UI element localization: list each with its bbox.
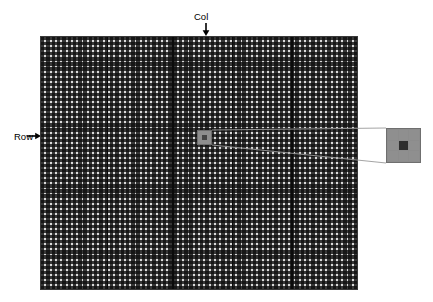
inset-cell xyxy=(409,151,418,160)
column-section-divider xyxy=(107,37,109,289)
inset-cell xyxy=(388,151,397,160)
selected-pixel-core xyxy=(202,135,207,140)
pixel-array-cells xyxy=(41,37,357,289)
pixel-array xyxy=(40,36,358,290)
inset-cell-center xyxy=(399,141,408,150)
inset-cell xyxy=(399,130,408,139)
row-arrow-icon xyxy=(27,130,41,142)
column-section-divider xyxy=(232,37,234,289)
column-section-divider xyxy=(291,37,293,289)
col-label: Col xyxy=(194,12,208,22)
inset-cell xyxy=(409,141,418,150)
selected-pixel[interactable] xyxy=(197,130,212,145)
column-section-divider xyxy=(172,37,174,289)
detector-array-figure: Col Row xyxy=(0,0,433,302)
inset-cell xyxy=(388,141,397,150)
inset-cell xyxy=(409,130,418,139)
col-arrow-icon xyxy=(200,23,212,36)
inset-cell xyxy=(388,130,397,139)
inset-cell xyxy=(399,151,408,160)
magnified-pixel-view xyxy=(386,128,421,163)
